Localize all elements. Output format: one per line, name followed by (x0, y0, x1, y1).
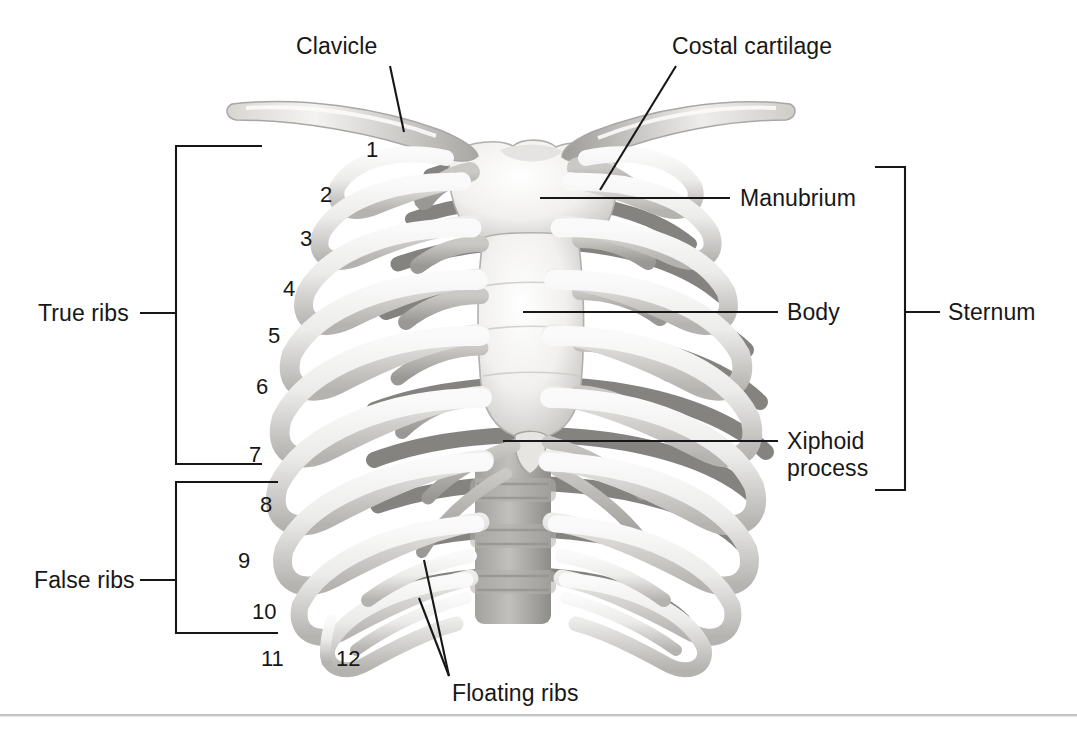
rib-cage-figure: Clavicle Costal cartilage Manubrium Body… (0, 0, 1077, 739)
label-xiphoid-process-line2: process (787, 455, 868, 481)
label-clavicle: Clavicle (296, 33, 377, 59)
rib-number-10: 10 (252, 601, 276, 623)
rib-number-8: 8 (260, 494, 272, 516)
footer-rule (0, 714, 1077, 717)
bracket-sternum (875, 167, 940, 490)
label-false-ribs: False ribs (34, 567, 135, 593)
rib-number-4: 4 (283, 278, 295, 300)
label-body: Body (787, 299, 840, 325)
rib-number-2: 2 (320, 184, 332, 206)
thoracic-vertebrae (470, 452, 556, 624)
label-true-ribs: True ribs (38, 300, 129, 326)
rib-11-tip-left (326, 620, 331, 662)
rib-number-12: 12 (336, 648, 360, 670)
rib-number-3: 3 (300, 228, 312, 250)
label-sternum: Sternum (948, 299, 1036, 325)
rib-cage-illustration (0, 0, 1077, 739)
rib-number-6: 6 (256, 376, 268, 398)
rib-number-5: 5 (268, 325, 280, 347)
label-floating-ribs: Floating ribs (452, 680, 579, 706)
label-xiphoid-process-line1: Xiphoid (787, 428, 864, 454)
bracket-true-ribs (140, 146, 262, 464)
rib-number-1: 1 (366, 139, 378, 161)
label-costal-cartilage: Costal cartilage (672, 33, 832, 59)
rib-number-9: 9 (238, 550, 250, 572)
label-manubrium: Manubrium (740, 185, 856, 211)
rib-number-11: 11 (261, 648, 284, 670)
rib-number-7: 7 (249, 444, 261, 466)
